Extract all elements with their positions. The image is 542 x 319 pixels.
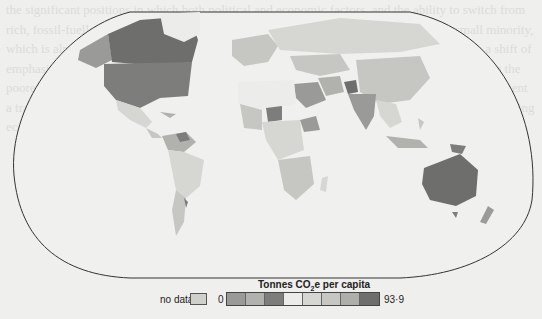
world-map: [0, 0, 542, 319]
region-niger-area: [266, 106, 282, 122]
region-north-africa: [238, 80, 296, 110]
